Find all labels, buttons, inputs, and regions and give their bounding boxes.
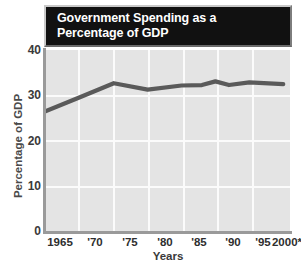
chart-title: Government Spending as aPercentage of GD… [57,11,284,41]
x-axis-line [43,231,292,234]
x-tick-label-1975: '75 [122,236,138,248]
chart-figure: Government Spending as aPercentage of GD… [0,0,301,267]
x-tick-label-1995: '95 [255,236,271,248]
y-axis-line [43,48,46,234]
y-tick-label-0: 0 [3,224,41,238]
x-tick-label-1985: '85 [191,236,207,248]
data-series-line [46,50,290,232]
x-tick-label-1980: '80 [157,236,173,248]
x-axis-title: Years [46,250,290,262]
x-tick-label-1965: 1965 [47,236,73,248]
chart-title-line1: Government Spending as a [57,11,216,25]
y-axis-title: Percentage of GDP [12,71,24,221]
chart-title-banner: Government Spending as aPercentage of GD… [44,5,292,47]
x-tick-label-1990: '90 [225,236,241,248]
chart-title-line2: Percentage of GDP [57,26,169,40]
y-tick-label-40: 40 [3,43,41,57]
x-tick-label-1970: '70 [87,236,103,248]
x-tick-label-2000: 2000* [272,236,301,248]
